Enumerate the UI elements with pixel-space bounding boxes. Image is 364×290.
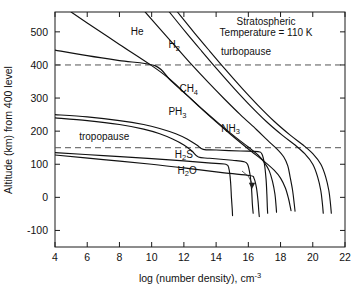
x-tick-label: 22 <box>339 251 351 263</box>
curve-label-He: He <box>131 26 144 37</box>
curve-NH3-lower <box>169 12 323 213</box>
x-tick-label: 18 <box>275 251 287 263</box>
x-axis-title: log (number density), cm-3 <box>139 271 261 284</box>
curve-label-H2O: H2O <box>178 165 197 179</box>
y-tick-label: 200 <box>30 125 48 137</box>
curve-label-CH4: CH4 <box>179 83 198 97</box>
tropopause-label: tropopause <box>79 131 129 142</box>
curve-H2O <box>55 155 259 217</box>
x-tick-label: 10 <box>146 251 158 263</box>
y-axis-title: Altitude (km) from 400 level <box>2 66 14 194</box>
chart-figure: 46810121416182022 -1000100200300400500 H… <box>0 0 364 290</box>
stratospheric-temperature-note: StratosphericTemperature = 110 K <box>220 16 313 38</box>
y-tick-label: 100 <box>30 158 48 170</box>
x-axis-tick-labels: 46810121416182022 <box>52 251 351 263</box>
nh3-arrow-head <box>249 183 255 189</box>
chart-svg: 46810121416182022 -1000100200300400500 H… <box>0 0 364 290</box>
x-tick-label: 20 <box>307 251 319 263</box>
curve-label-PH3-upper: PH3 <box>168 106 186 120</box>
x-tick-label: 8 <box>117 251 123 263</box>
y-axis-tick-labels: -1000100200300400500 <box>27 26 48 237</box>
y-axis-title-group: Altitude (km) from 400 level <box>2 66 14 194</box>
x-axis-title-group: log (number density), cm-3 <box>139 271 261 284</box>
x-tick-label: 6 <box>84 251 90 263</box>
data-curves <box>55 12 331 217</box>
turbopause-label: turbopause <box>221 46 271 57</box>
x-tick-label: 14 <box>210 251 222 263</box>
x-tick-label: 16 <box>242 251 254 263</box>
x-axis-ticks <box>55 12 345 247</box>
curve-H2S <box>55 153 233 216</box>
x-tick-label: 12 <box>178 251 190 263</box>
y-tick-label: 0 <box>42 191 48 203</box>
y-tick-label: 500 <box>30 26 48 38</box>
y-tick-label: 400 <box>30 59 48 71</box>
curve-label-H2: H2 <box>169 39 180 53</box>
y-tick-label: -100 <box>27 224 48 236</box>
x-tick-label: 4 <box>52 251 58 263</box>
plot-frame <box>55 12 345 247</box>
y-tick-label: 300 <box>30 92 48 104</box>
